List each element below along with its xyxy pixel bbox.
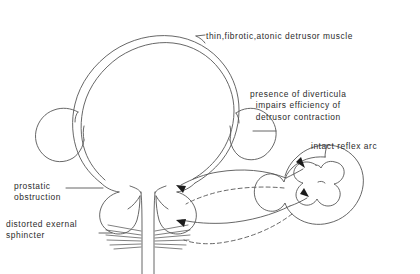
bladder-neck-right bbox=[155, 186, 166, 193]
left-diverticulum-neck-upper bbox=[75, 112, 78, 122]
label-sphincter-line1: distorted exernal bbox=[6, 219, 77, 230]
efferent-arc-upper bbox=[186, 187, 284, 204]
bladder-inner-wall bbox=[81, 43, 234, 180]
gray-matter-butterfly bbox=[294, 161, 344, 206]
prostate-left-inner bbox=[128, 196, 140, 209]
label-diverticula-line2: impairs efficiency of bbox=[250, 100, 346, 111]
leader-detrusor bbox=[196, 35, 205, 36]
right-diverticulum-neck-lower bbox=[230, 126, 231, 140]
afferent-arc-upper bbox=[181, 170, 286, 185]
gray-matter-central-canal bbox=[318, 181, 325, 183]
efferent-arc-lower bbox=[184, 214, 292, 244]
label-diverticula-line1: presence of diverticula bbox=[250, 89, 346, 100]
bladder-neck-left bbox=[130, 186, 141, 193]
label-prostatic-line1: prostatic bbox=[14, 181, 61, 192]
left-diverticulum-neck-lower bbox=[83, 126, 84, 140]
bladder-base-left bbox=[101, 183, 119, 192]
prostate-right-lobe bbox=[156, 192, 196, 234]
external-sphincter-left-fibers bbox=[106, 225, 141, 249]
arrowhead-into-cord-lower bbox=[300, 188, 309, 197]
label-diverticula-line3: detrusor contraction bbox=[250, 112, 346, 123]
label-detrusor-muscle: thin,fibrotic,atonic detrusor muscle bbox=[206, 31, 353, 42]
left-diverticulum bbox=[35, 108, 84, 161]
afferent-arc-lower bbox=[182, 206, 290, 223]
prostate-left-lobe bbox=[100, 192, 140, 234]
label-intact-reflex-arc: intact reflex arc bbox=[311, 141, 377, 152]
label-sphincter-line2: sphincter bbox=[6, 230, 77, 241]
urethra-right-wall bbox=[154, 192, 155, 274]
bladder-outer-wall bbox=[73, 36, 239, 183]
label-prostatic-obstruction: prostatic obstruction bbox=[14, 181, 61, 204]
label-prostatic-line2: obstruction bbox=[14, 192, 61, 203]
diagram-canvas: thin,fibrotic,atonic detrusor muscle pre… bbox=[0, 0, 420, 274]
external-sphincter-right-fibers bbox=[155, 225, 190, 249]
urethra-left-wall bbox=[141, 192, 142, 274]
leader-detrusor-hook bbox=[196, 36, 205, 43]
spinal-cord-outline bbox=[254, 145, 363, 224]
label-distorted-external-sphincter: distorted exernal sphincter bbox=[6, 219, 77, 242]
label-diverticula: presence of diverticula impairs efficien… bbox=[250, 89, 346, 123]
prostate-right-inner bbox=[156, 196, 168, 209]
